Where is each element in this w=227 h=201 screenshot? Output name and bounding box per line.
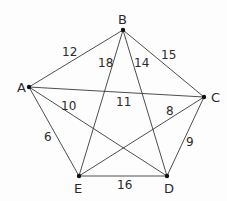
weight-label-c-e: 8 (166, 104, 174, 118)
node-c-dot (202, 95, 206, 99)
weight-label-e-d: 16 (117, 178, 132, 192)
weight-label-a-d: 10 (61, 99, 76, 113)
weight-label-b-e: 18 (98, 56, 113, 70)
node-d-dot (165, 174, 169, 178)
weight-label-a-e: 6 (44, 130, 52, 144)
weight-label-c-d: 9 (186, 135, 194, 149)
weight-label-a-c: 11 (116, 95, 131, 109)
node-e-label: E (74, 181, 82, 196)
edge-weights: 12181415111089616 (44, 45, 194, 192)
node-b-label: B (118, 12, 127, 27)
node-c-label: C (211, 90, 220, 105)
weighted-graph-diagram: 12181415111089616 ABCDE (0, 0, 227, 201)
node-e-dot (77, 174, 81, 178)
node-d-label: D (164, 181, 174, 196)
weight-label-b-d: 14 (134, 56, 149, 70)
node-a-dot (27, 85, 31, 89)
node-a-label: A (17, 80, 26, 95)
weight-label-a-b: 12 (62, 45, 77, 59)
node-b-dot (121, 28, 125, 32)
weight-label-b-c: 15 (161, 48, 176, 62)
